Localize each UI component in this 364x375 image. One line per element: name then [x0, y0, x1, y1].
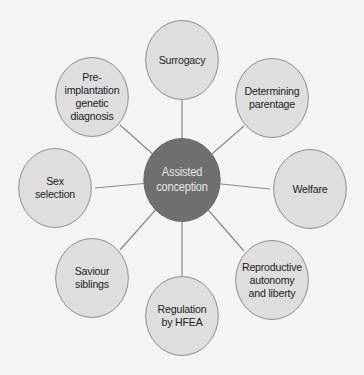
node-regulation-hfea: Regulation by HFEA: [145, 276, 219, 356]
node-label: Welfare: [291, 181, 330, 198]
node-reproductive-autonomy: Reproductive autonomy and liberty: [235, 240, 309, 320]
node-label: Pre-implantation genetic diagnosis: [56, 69, 128, 125]
node-label: Sex selection: [33, 173, 77, 203]
node-label: Saviour siblings: [73, 263, 111, 293]
node-label: Surrogacy: [157, 52, 207, 69]
node-pgd: Pre-implantation genetic diagnosis: [55, 57, 129, 137]
node-welfare: Welfare: [273, 149, 347, 229]
node-determining-parentage: Determining parentage: [235, 58, 309, 138]
center-node-assisted-conception: Assisted conception: [143, 138, 220, 222]
mind-map-diagram: Surrogacy Determining parentage Welfare …: [0, 0, 364, 375]
node-label: Regulation by HFEA: [156, 301, 208, 331]
center-label: Assisted conception: [154, 163, 209, 197]
node-sex-selection: Sex selection: [18, 148, 92, 228]
node-surrogacy: Surrogacy: [145, 20, 219, 100]
node-label: Determining parentage: [243, 83, 302, 113]
node-label: Reproductive autonomy and liberty: [240, 259, 304, 302]
node-saviour-siblings: Saviour siblings: [55, 238, 129, 318]
